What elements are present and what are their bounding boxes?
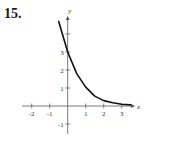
y-tick-label: -1	[58, 121, 64, 129]
x-tick-label: -1	[47, 110, 53, 118]
x-axis-label: x	[136, 103, 141, 111]
y-tick-label: 2	[60, 67, 64, 75]
y-axis-arrow-icon	[66, 16, 70, 20]
x-tick-label: 3	[120, 110, 124, 118]
exponential-chart: xy-2-1123-1123	[0, 0, 187, 145]
y-axis-label: y	[67, 7, 72, 15]
x-tick-label: 1	[84, 110, 88, 118]
y-tick-label: 3	[60, 49, 64, 57]
x-tick-label: 2	[102, 110, 106, 118]
y-tick-label: 1	[60, 85, 64, 93]
x-tick-label: -2	[29, 110, 35, 118]
x-axis-arrow-icon	[131, 104, 135, 108]
axes: xy-2-1123-1123	[22, 7, 141, 134]
